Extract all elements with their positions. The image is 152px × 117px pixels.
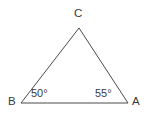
- triangle-diagram: C B A 50° 55°: [0, 0, 152, 117]
- vertex-label-a: A: [132, 96, 140, 107]
- angle-label-b: 50°: [31, 88, 48, 99]
- angle-label-a: 55°: [95, 88, 112, 99]
- vertex-label-c: C: [74, 8, 82, 19]
- vertex-label-b: B: [8, 96, 16, 107]
